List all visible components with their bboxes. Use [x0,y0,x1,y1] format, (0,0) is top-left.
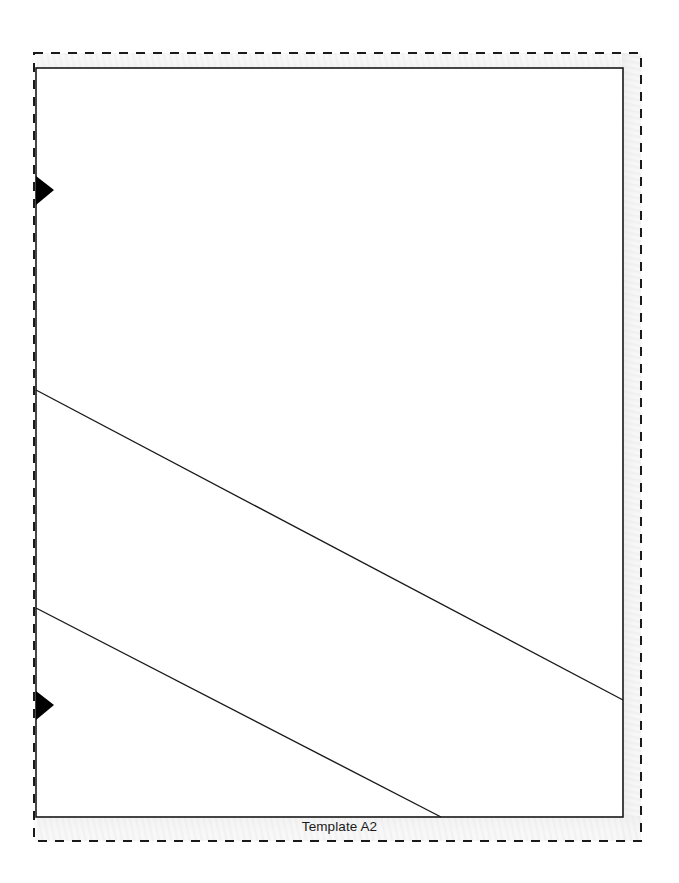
template-canvas: Template A2 [0,0,679,883]
paper-background [0,0,679,883]
template-drawing [0,0,679,883]
